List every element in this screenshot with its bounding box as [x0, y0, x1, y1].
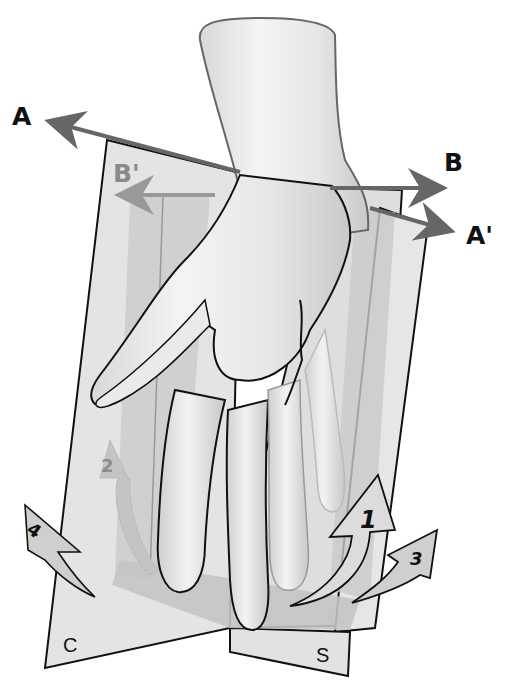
label-axis-a-prime: A': [466, 221, 493, 250]
label-axis-b-prime: B': [113, 159, 140, 188]
label-rotation-2: 2: [101, 455, 114, 476]
label-rotation-3: 3: [410, 548, 423, 569]
label-axis-a: A: [12, 102, 32, 131]
label-axis-b: B: [444, 148, 463, 177]
label-plane-s: S: [316, 644, 329, 666]
hand-planes-diagram: A A' B B' 2 4 1 3 C S: [0, 0, 528, 682]
label-plane-c: C: [63, 634, 77, 656]
label-rotation-1: 1: [360, 506, 377, 534]
